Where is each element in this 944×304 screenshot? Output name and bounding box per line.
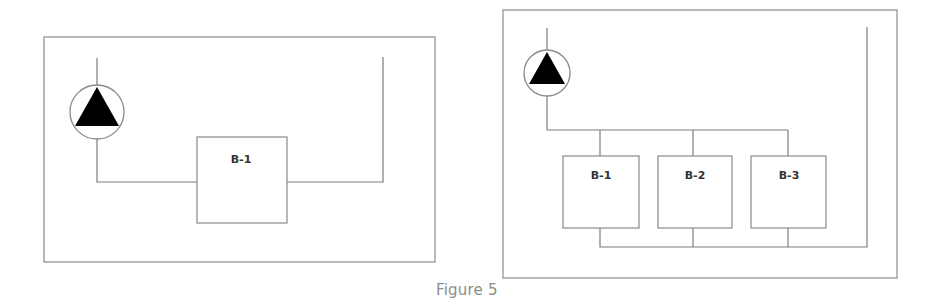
boiler-box-b2: B-2: [658, 156, 732, 228]
left-return-pipe: [287, 57, 383, 182]
pump-icon: [70, 85, 124, 139]
figure-canvas: B-1 B-1 B-2 B-3: [0, 0, 944, 304]
boiler-box-b1: B-1: [563, 156, 639, 228]
left-panel: B-1: [44, 37, 435, 262]
boiler-box-b1: B-1: [197, 137, 287, 223]
figure-caption: Figure 5: [436, 281, 498, 299]
right-supply-manifold: [547, 28, 788, 130]
boiler-label: B-3: [779, 169, 800, 182]
boiler-label: B-1: [591, 169, 612, 182]
pump-icon: [524, 50, 570, 96]
right-panel: B-1 B-2 B-3: [503, 10, 897, 278]
boiler-label: B-2: [685, 169, 706, 182]
right-return-manifold: [600, 27, 867, 247]
boiler-box-b3: B-3: [751, 156, 826, 228]
right-panel-frame: [503, 10, 897, 278]
boiler-label: B-1: [231, 153, 252, 166]
